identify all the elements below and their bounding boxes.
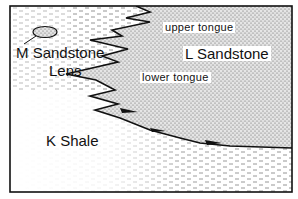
m-sandstone-lens-label: Lens [49, 63, 82, 78]
upper-tongue-label: upper tongue [163, 22, 235, 33]
m-sandstone-lens [33, 27, 57, 38]
l-sandstone-label: L Sandstone [183, 46, 271, 61]
m-sandstone-label: M Sandstone [16, 45, 104, 60]
lower-tongue-label: lower tongue [140, 72, 211, 83]
k-shale-label: K Shale [46, 133, 99, 148]
cross-section-diagram [0, 0, 298, 199]
